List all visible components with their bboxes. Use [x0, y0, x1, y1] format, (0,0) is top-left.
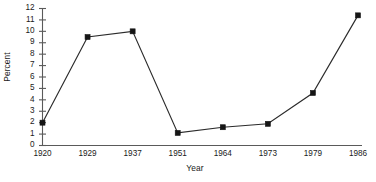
x-tick-label: 1951: [158, 150, 198, 158]
x-tick-label: 1937: [113, 150, 153, 158]
x-tick-label: 1929: [68, 150, 108, 158]
x-axis-title-text: Year: [186, 163, 203, 173]
y-tick-label: 12: [17, 4, 35, 12]
y-tick-label: 11: [17, 16, 35, 24]
data-point-marker: [85, 35, 90, 40]
x-tick-label: 1920: [23, 150, 63, 158]
x-tick-label: 1973: [248, 150, 288, 158]
x-tick-label: 1986: [338, 150, 376, 158]
y-tick-label: 6: [17, 73, 35, 81]
y-tick-label: 4: [17, 96, 35, 104]
y-tick-label: 8: [17, 50, 35, 58]
data-point-marker: [265, 121, 270, 126]
y-tick-label: 0: [17, 141, 35, 149]
y-tick-label: 9: [17, 38, 35, 46]
data-point-markers: [40, 13, 361, 136]
data-point-marker: [130, 29, 135, 34]
axes-group: [43, 8, 363, 146]
y-tick-label: 1: [17, 130, 35, 138]
y-tick-label: 2: [17, 118, 35, 126]
series-line-percent: [43, 15, 359, 133]
data-point-marker: [356, 13, 361, 18]
data-point-marker: [220, 125, 225, 130]
data-point-marker: [40, 120, 45, 125]
x-tick-label: 1964: [203, 150, 243, 158]
y-tick-label: 5: [17, 84, 35, 92]
line-chart-figure: Percent 0123456789101112 192019291937195…: [0, 0, 376, 182]
y-tick-label: 3: [17, 107, 35, 115]
x-tick-label: 1979: [293, 150, 333, 158]
y-tick-label: 10: [17, 27, 35, 35]
x-axis-title: Year: [0, 163, 376, 173]
data-point-marker: [175, 130, 180, 135]
data-point-marker: [310, 90, 315, 95]
y-tick-label: 7: [17, 61, 35, 69]
